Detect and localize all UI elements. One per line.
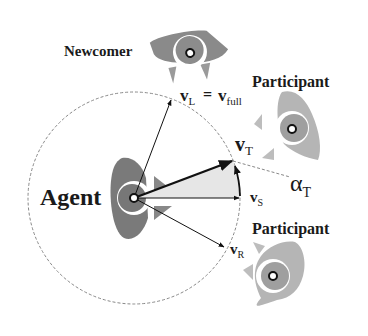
label-v-full: vfull (218, 86, 242, 107)
vector-v-R (134, 198, 224, 247)
label-equals: = (203, 86, 212, 103)
diagram-canvas: Newcomer Participant Participant Agent (0, 0, 368, 336)
participant-bottom-label: Participant (252, 220, 330, 238)
label-v-L: vL (180, 86, 196, 107)
alpha-dashed-line (233, 161, 290, 177)
participant-top-figure (254, 91, 320, 160)
agent-center-icon (130, 194, 138, 202)
participant-top-label: Participant (252, 73, 330, 91)
participant-top-center-icon (288, 125, 296, 133)
newcomer-center-icon (186, 48, 195, 57)
vector-v-L (134, 100, 171, 198)
diagram-svg: Newcomer Participant Participant Agent (0, 0, 368, 336)
newcomer-label: Newcomer (64, 43, 133, 59)
participant-bottom-center-icon (269, 272, 277, 280)
label-v-T: vT (235, 133, 253, 158)
participant-bottom-figure (243, 242, 305, 306)
agent-label: Agent (40, 184, 101, 210)
label-v-S: vS (250, 189, 263, 208)
label-alpha-T: αT (290, 170, 312, 200)
label-v-R: vR (230, 241, 245, 260)
newcomer-figure (149, 25, 233, 88)
